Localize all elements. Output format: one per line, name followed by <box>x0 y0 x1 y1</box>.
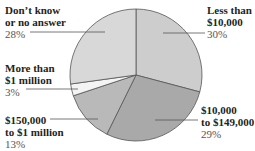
label-150k-1m-line1: $150,000 <box>5 114 64 126</box>
label-less-10k-line1: Less than <box>207 4 252 16</box>
label-10k-149k: $10,000 to $149,000 29% <box>201 104 254 140</box>
label-more-1m-pct: 3% <box>5 86 55 98</box>
label-150k-1m-pct: 13% <box>5 138 64 150</box>
label-dont-know: Don’t know or no answer 28% <box>5 4 66 40</box>
pie-slice <box>70 9 136 84</box>
label-more-1m-line1: More than <box>5 62 55 74</box>
label-150k-1m-line2: to $1 million <box>5 126 64 138</box>
label-10k-149k-pct: 29% <box>201 128 254 140</box>
label-dont-know-pct: 28% <box>5 28 66 40</box>
label-less-10k: Less than $10,000 30% <box>207 4 252 40</box>
label-less-10k-line2: $10,000 <box>207 16 252 28</box>
label-dont-know-line1: Don’t know <box>5 4 66 16</box>
label-10k-149k-line1: $10,000 <box>201 104 254 116</box>
label-more-1m-line2: $1 million <box>5 74 55 86</box>
label-150k-1m: $150,000 to $1 million 13% <box>5 114 64 150</box>
label-dont-know-line2: or no answer <box>5 16 66 28</box>
label-10k-149k-line2: to $149,000 <box>201 116 254 128</box>
label-more-1m: More than $1 million 3% <box>5 62 55 98</box>
label-less-10k-pct: 30% <box>207 28 252 40</box>
